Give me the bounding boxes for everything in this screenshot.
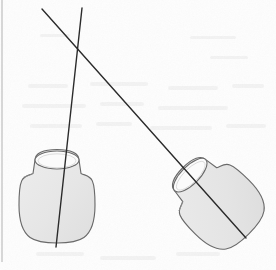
figure-root: Two flask outlines crossed by two straig… — [0, 0, 276, 270]
figure-canvas — [0, 0, 276, 270]
